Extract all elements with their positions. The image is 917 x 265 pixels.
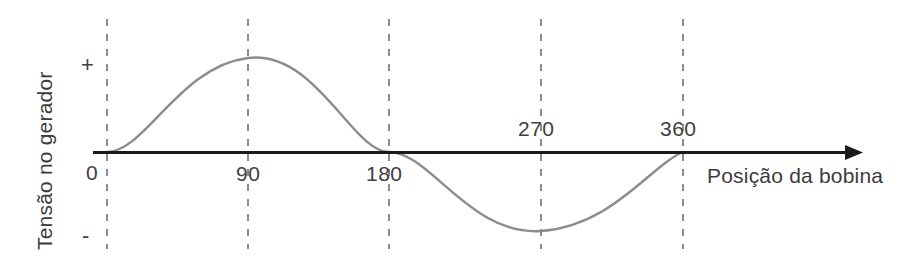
x-tick-label-90: 90 — [236, 163, 260, 184]
x-tick-label-0: 0 — [86, 162, 98, 183]
x-axis-title: Posição da bobina — [707, 165, 883, 186]
x-tick-label-270: 270 — [518, 118, 555, 139]
arrow-right-icon — [845, 145, 863, 160]
y-mark-negative: - — [82, 225, 89, 247]
sine-curve — [107, 58, 683, 232]
x-tick-label-180: 180 — [366, 163, 403, 184]
y-mark-positive: + — [81, 54, 94, 76]
x-tick-label-360: 360 — [660, 118, 697, 139]
sine-wave-chart: Tensão no gerador + - 0 90 180 270 360 P… — [0, 0, 917, 265]
y-axis-title: Tensão no gerador — [34, 30, 68, 250]
x-axis-line — [93, 145, 863, 160]
chart-canvas — [0, 0, 917, 265]
